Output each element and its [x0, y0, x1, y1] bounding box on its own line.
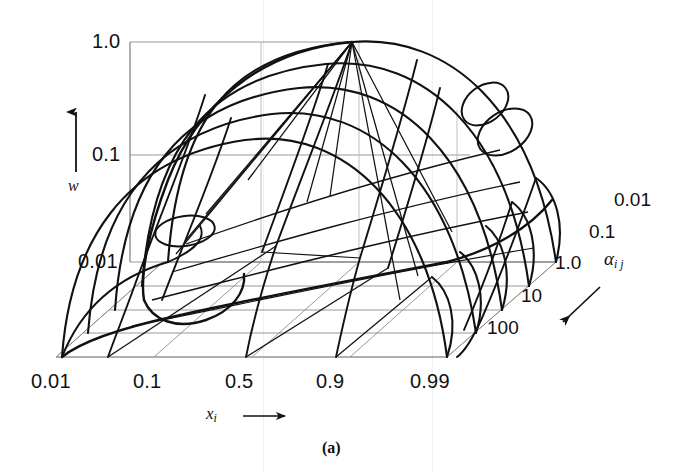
figure-caption: (a) [322, 440, 341, 456]
w-axis-title: w [68, 178, 79, 194]
x-tick-0.99: 0.99 [410, 371, 450, 391]
x-tick-0.5: 0.5 [225, 371, 253, 391]
w-tick-0.01: 0.01 [78, 251, 118, 271]
x-axis-title: xi [206, 405, 217, 424]
x-axis-title-base: x [206, 404, 214, 423]
figure-3d-surface-plot: 1.0 0.1 0.01 w 0.01 0.1 0.5 0.9 0.99 xi … [0, 0, 675, 473]
alpha-tick-0.01: 0.01 [614, 190, 651, 209]
alpha-axis-arrow [563, 287, 600, 322]
alpha-tick-100: 100 [487, 318, 519, 337]
plot-canvas [0, 0, 675, 473]
x-tick-0.01: 0.01 [31, 371, 71, 391]
alpha-tick-10: 10 [521, 286, 542, 305]
alpha-axis-title-base: α [604, 248, 614, 269]
x-tick-0.9: 0.9 [316, 371, 344, 391]
alpha-tick-0.1: 0.1 [589, 222, 615, 241]
surface-fold-loop-left [153, 212, 217, 250]
alpha-axis-title-subscript: i j [614, 257, 624, 271]
alpha-axis-title: αi j [604, 249, 624, 270]
surface-fold-loop-right [453, 74, 541, 166]
x-axis-title-subscript: i [214, 411, 217, 425]
w-tick-0.1: 0.1 [92, 144, 120, 164]
w-tick-1.0: 1.0 [92, 31, 120, 51]
alpha-tick-1.0: 1.0 [555, 253, 581, 272]
x-tick-0.1: 0.1 [133, 371, 161, 391]
